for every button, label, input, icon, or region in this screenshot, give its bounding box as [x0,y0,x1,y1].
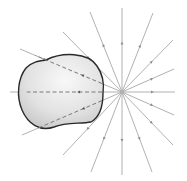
field-line [122,40,173,92]
field-diagram [0,0,187,181]
arrow-icon [121,42,124,45]
field-line [122,92,152,172]
field-line [122,92,173,145]
point-charge-icon [120,90,124,94]
arrow-icon [121,139,124,142]
arrow-icon [151,91,154,94]
